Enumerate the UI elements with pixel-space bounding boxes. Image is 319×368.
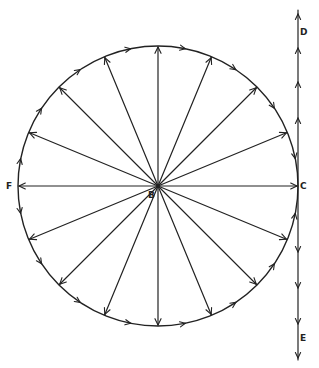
label-e: E bbox=[300, 334, 306, 343]
label-c: C bbox=[300, 182, 307, 191]
radial-arrows bbox=[19, 47, 297, 325]
vector-circle-diagram bbox=[0, 0, 319, 368]
label-d: D bbox=[300, 28, 307, 37]
label-f: F bbox=[6, 182, 12, 191]
label-b: B bbox=[148, 191, 155, 200]
